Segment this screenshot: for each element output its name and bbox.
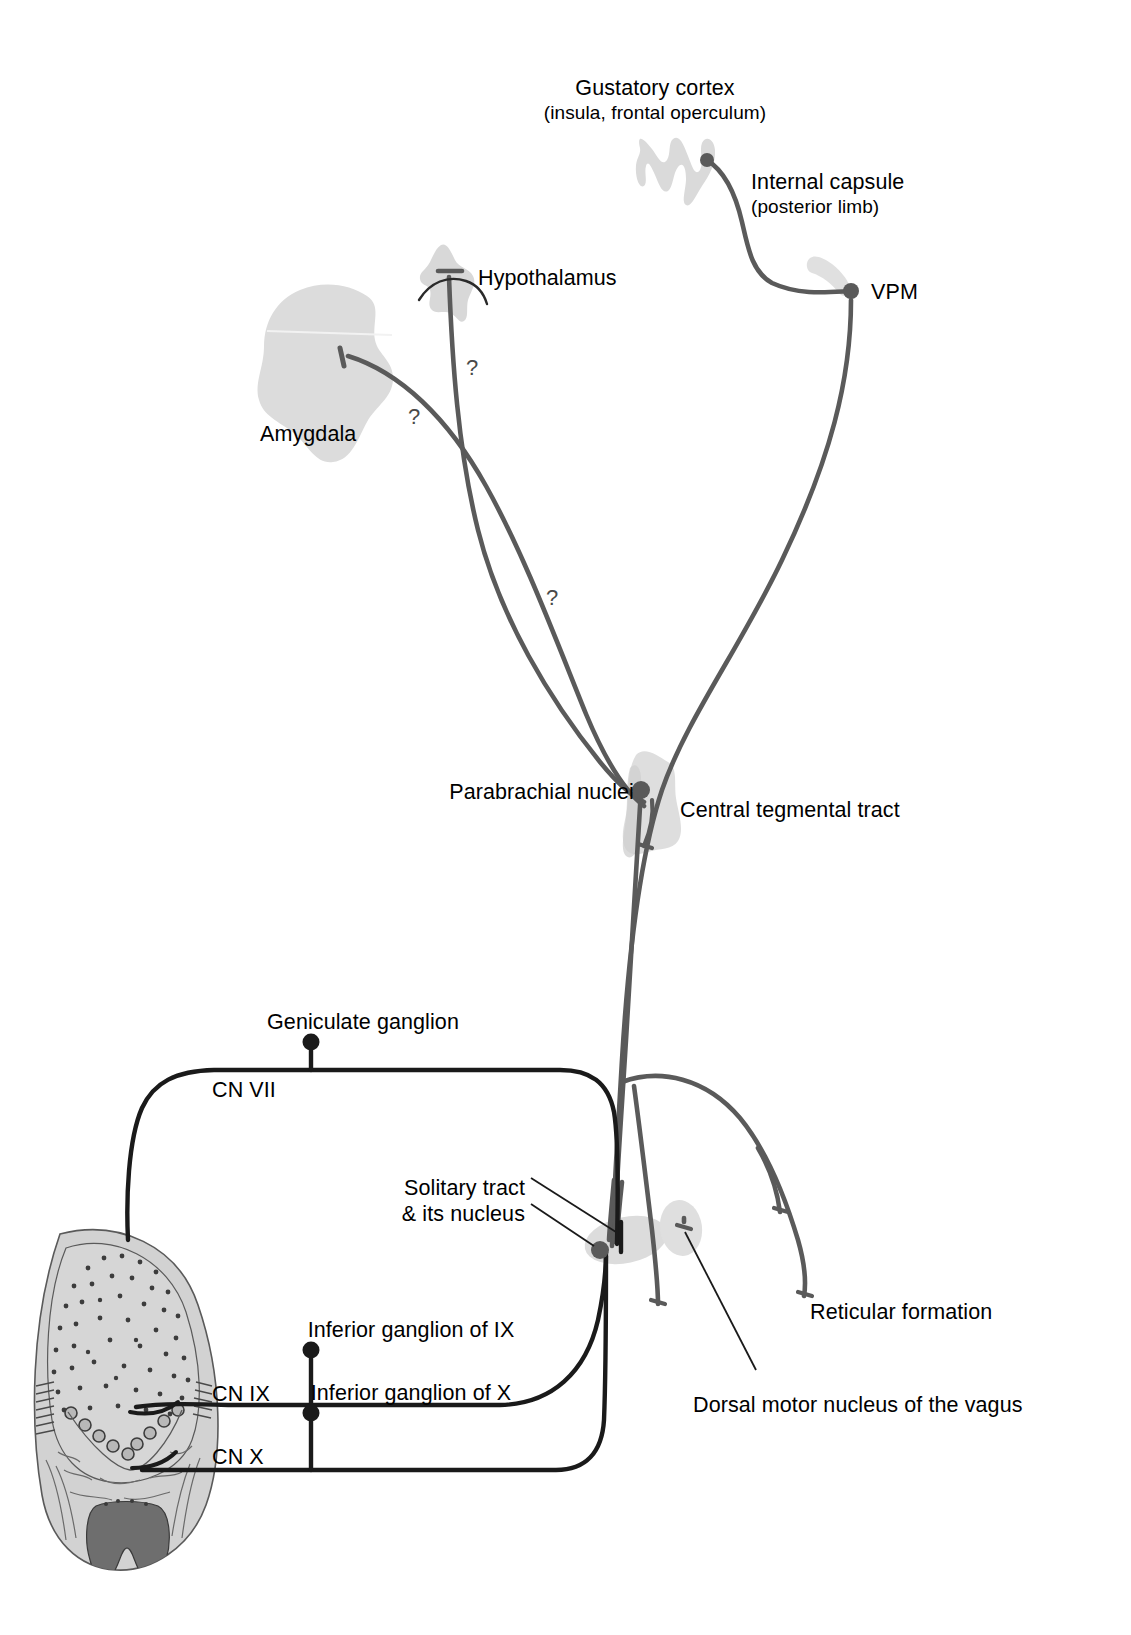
label-solitary-nucleus: & its nucleus (402, 1202, 525, 1227)
label-amygdala: Amygdala (260, 422, 356, 447)
node-inferior-ix (303, 1342, 320, 1359)
node-inferior-x (303, 1405, 320, 1422)
leader-dorsal-motor (685, 1232, 756, 1370)
internal-capsule-sub: (posterior limb) (751, 195, 904, 218)
label-central-tegmental-tract: Central tegmental tract (680, 798, 900, 823)
label-inferior-ganglion-ix: Inferior ganglion of IX (308, 1318, 515, 1343)
label-solitary-tract: Solitary tract (404, 1176, 525, 1201)
node-cortex (700, 153, 714, 167)
label-reticular-formation: Reticular formation (810, 1300, 992, 1325)
gustatory-cortex-sub: (insula, frontal operculum) (544, 101, 766, 124)
question-mark-hypothalamus: ? (466, 357, 478, 379)
gustatory-pathway-figure: Gustatory cortex (insula, frontal opercu… (0, 0, 1131, 1635)
tract-nodes (591, 153, 859, 1259)
fiber-descend-a (634, 1086, 658, 1304)
label-gustatory-cortex: Gustatory cortex (insula, frontal opercu… (544, 76, 766, 124)
label-cn-vii: CN VII (212, 1078, 276, 1103)
leader-lines (531, 1178, 756, 1370)
label-hypothalamus: Hypothalamus (478, 266, 617, 291)
question-mark-amygdala: ? (408, 406, 420, 428)
structure-shapes (258, 138, 850, 1271)
label-dorsal-motor-nucleus-vagus: Dorsal motor nucleus of the vagus (693, 1393, 1023, 1418)
node-vpm (843, 283, 859, 299)
label-geniculate-ganglion: Geniculate ganglion (267, 1010, 459, 1035)
question-mark-ascending: ? (546, 587, 558, 609)
label-vpm: VPM (871, 280, 918, 305)
internal-capsule-main: Internal capsule (751, 170, 904, 194)
path-parabrachial-to-hypothalamus (449, 277, 644, 802)
label-inferior-ganglion-x: Inferior ganglion of X (311, 1381, 512, 1406)
cns-tracts (348, 160, 851, 1304)
tongue-shape (35, 1230, 218, 1586)
label-cn-x: CN X (212, 1445, 264, 1470)
gustatory-cortex-shape (636, 138, 715, 206)
label-parabrachial-nuclei: Parabrachial nuclei (449, 780, 634, 805)
path-reticular (622, 1076, 805, 1296)
gustatory-cortex-main: Gustatory cortex (575, 76, 734, 100)
node-parabrachial (632, 781, 650, 799)
leader-solitary-nucleus (531, 1204, 594, 1246)
leader-solitary-tract (531, 1178, 616, 1232)
label-cn-ix: CN IX (212, 1382, 270, 1407)
pathway-svg (0, 0, 1131, 1635)
node-solitary (591, 1241, 609, 1259)
label-internal-capsule: Internal capsule (posterior limb) (751, 170, 904, 218)
node-geniculate (303, 1034, 320, 1051)
path-cn7 (127, 1070, 617, 1244)
